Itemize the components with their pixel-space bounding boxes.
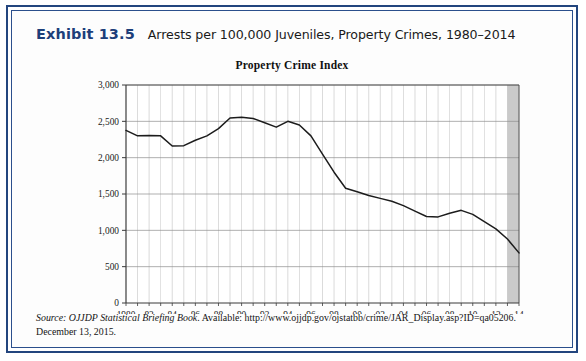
y-tick-label: 2,000 (98, 153, 119, 163)
exhibit-frame: Exhibit 13.5Arrests per 100,000 Juvenile… (6, 5, 578, 353)
source-publication: OJJDP Statistical Briefing Book (66, 312, 197, 323)
source-date: December 13, 2015. (36, 325, 554, 339)
source-label: Source: (36, 312, 66, 323)
exhibit-number: Exhibit 13.5 (36, 26, 135, 42)
exhibit-caption: Arrests per 100,000 Juveniles, Property … (148, 27, 516, 42)
exhibit-body: Exhibit 13.5Arrests per 100,000 Juvenile… (12, 11, 572, 347)
property-crime-index-chart: 05001,0001,5002,0002,5003,00019808284868… (12, 66, 572, 314)
y-tick-label: 1,500 (98, 189, 119, 199)
source-url: . Available: http://www.ojjdp.gov/ojstat… (197, 312, 516, 323)
exhibit-header: Exhibit 13.5Arrests per 100,000 Juvenile… (36, 25, 558, 51)
y-tick-label: 1,000 (98, 226, 119, 236)
y-tick-label: 0 (114, 298, 119, 308)
source-note: Source: OJJDP Statistical Briefing Book.… (36, 311, 554, 338)
y-tick-label: 2,500 (98, 117, 119, 127)
y-tick-label: 3,000 (98, 80, 119, 90)
chart-svg: 05001,0001,5002,0002,5003,00019808284868… (12, 66, 586, 314)
exhibit-frame-inner-border: Exhibit 13.5Arrests per 100,000 Juvenile… (11, 10, 573, 348)
y-tick-label: 500 (105, 262, 119, 272)
